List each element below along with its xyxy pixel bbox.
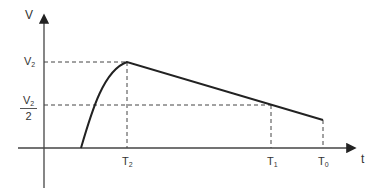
x-axis-label: t [361, 153, 364, 165]
v2-half-label: V2 2 [20, 94, 37, 122]
v2-label: V2 [24, 56, 35, 68]
t2-label: T2 [122, 156, 133, 168]
y-axis-label: V [25, 9, 33, 21]
t1-label: T1 [267, 156, 278, 168]
t0-label: T0 [318, 156, 329, 168]
